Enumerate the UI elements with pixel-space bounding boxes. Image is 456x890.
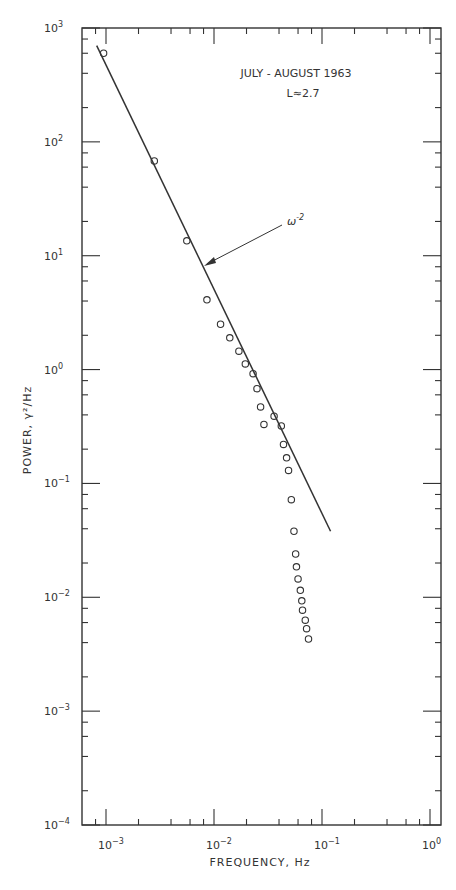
y-tick-label: 103 [44, 20, 63, 35]
x-tick-label: 10−3 [98, 837, 124, 852]
chart-subtitle: L≈2.7 [287, 87, 320, 100]
y-tick-label: 10−1 [44, 475, 70, 490]
data-point [292, 551, 298, 557]
y-tick-label: 10−2 [44, 589, 70, 604]
data-point [257, 404, 263, 410]
data-point [299, 598, 305, 604]
data-point [302, 617, 308, 623]
y-tick-label: 10−3 [44, 703, 70, 718]
x-tick-label: 10−1 [314, 837, 340, 852]
chart-title: JULY - AUGUST 1963 [240, 67, 352, 80]
fit-line [97, 46, 331, 532]
x-axis-label: FREQUENCY, Hz [209, 856, 310, 869]
data-point [283, 455, 289, 461]
arrowhead-icon [204, 257, 216, 266]
data-point [305, 636, 311, 642]
y-tick-label: 102 [44, 134, 63, 149]
data-point [204, 297, 210, 303]
power-spectrum-chart: 10−310−210−110010−410−310−210−1100101102… [0, 0, 456, 890]
data-point [299, 607, 305, 613]
x-tick-label: 10−2 [206, 837, 232, 852]
data-point [295, 576, 301, 582]
data-point [280, 441, 286, 447]
data-point [217, 321, 223, 327]
data-point [236, 348, 242, 354]
data-point [291, 528, 297, 534]
y-tick-label: 100 [44, 362, 63, 377]
x-tick-label: 100 [422, 837, 441, 852]
data-point [227, 335, 233, 341]
data-point [285, 467, 291, 473]
omega-annotation: ω-2 [204, 213, 304, 266]
y-tick-label: 10−4 [44, 817, 70, 832]
data-point [293, 564, 299, 570]
svg-text:ω-2: ω-2 [287, 213, 304, 228]
tick-labels: 10−310−210−110010−410−310−210−1100101102… [44, 20, 441, 852]
y-tick-label: 101 [44, 248, 63, 263]
data-point [297, 587, 303, 593]
data-point [261, 421, 267, 427]
data-point [303, 625, 309, 631]
y-axis-label: POWER, γ²/Hz [21, 386, 34, 474]
data-point [242, 361, 248, 367]
data-point [288, 496, 294, 502]
data-series [97, 46, 331, 643]
data-point [254, 385, 260, 391]
